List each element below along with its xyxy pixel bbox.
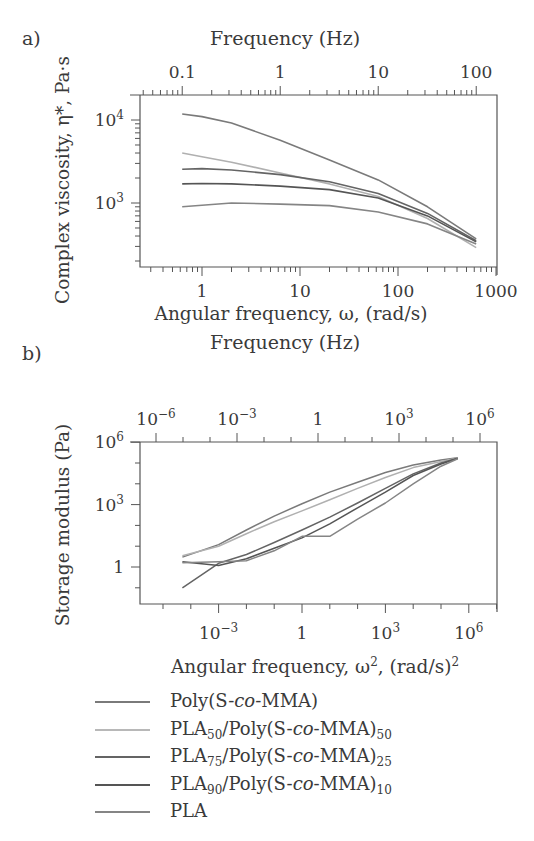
tick-label: 10−3 — [217, 407, 256, 429]
legend-label: PLA75/Poly(S-co-MMA)25 — [170, 745, 392, 773]
legend-swatch — [95, 784, 150, 786]
panel-b-left-ticks: 1061031 — [95, 430, 140, 588]
panel-a-series — [182, 114, 476, 248]
legend-item: PLA75/Poly(S-co-MMA)25 — [95, 745, 515, 773]
panel-b-y-axis-title: Storage modulus (Pa) — [52, 424, 73, 627]
panel-a-y-axis-title: Complex viscosity, η*, Pa·s — [52, 56, 73, 304]
tick-label: 1 — [297, 623, 308, 643]
tick-label: 10 — [289, 281, 311, 301]
legend-item: PLA50/Poly(S-co-MMA)50 — [95, 718, 515, 746]
series-line-2 — [182, 458, 457, 588]
panel-b-bottom-ticks: 10−31103106 — [163, 604, 497, 643]
panel-b-series — [182, 458, 457, 588]
legend-label: Poly(S-co-MMA) — [170, 690, 318, 712]
legend-item: PLA90/Poly(S-co-MMA)10 — [95, 773, 515, 801]
panel-b-x-axis-title: Angular frequency, ω2, (rad/s)2 — [170, 655, 459, 677]
legend-swatch — [95, 701, 150, 703]
legend-label: PLA90/Poly(S-co-MMA)10 — [170, 773, 392, 801]
tick-label: 106 — [95, 430, 124, 452]
panel-a-bottom-ticks: 1101001000 — [151, 267, 518, 301]
series-line-1 — [182, 153, 476, 248]
tick-label: 10−3 — [199, 621, 238, 643]
tick-label: 1 — [275, 62, 286, 82]
panel-a-x-axis-title: Angular frequency, ω, (rad/s) — [154, 303, 428, 324]
tick-label: 10−6 — [136, 407, 175, 429]
tick-label: 103 — [95, 191, 124, 213]
panel-b-label: b) — [22, 342, 42, 364]
legend-swatch — [95, 756, 150, 758]
panel-a-plot-frame — [130, 95, 497, 275]
tick-label: 1 — [197, 281, 208, 301]
panel-b-top-ticks: 10−610−31103106 — [136, 407, 494, 442]
panel-b-top-axis-title: Frequency (Hz) — [210, 331, 360, 353]
panel-a-left-ticks: 104103 — [95, 108, 140, 261]
legend-item: PLA — [95, 800, 515, 828]
tick-label: 103 — [384, 407, 413, 429]
panel-a-top-ticks: 0.1110100 — [143, 62, 492, 95]
tick-label: 106 — [465, 407, 494, 429]
series-line-3 — [182, 184, 476, 242]
panel-a-label: a) — [22, 27, 41, 49]
series-line-2 — [182, 169, 476, 241]
tick-label: 1 — [313, 409, 324, 429]
tick-label: 104 — [95, 108, 125, 130]
series-line-3 — [182, 459, 457, 566]
legend: Poly(S-co-MMA)PLA50/Poly(S-co-MMA)50PLA7… — [95, 690, 515, 828]
series-line-0 — [182, 114, 476, 239]
legend-label: PLA — [170, 800, 207, 822]
legend-item: Poly(S-co-MMA) — [95, 690, 515, 718]
tick-label: 0.1 — [169, 62, 196, 82]
tick-label: 103 — [371, 621, 400, 643]
legend-label: PLA50/Poly(S-co-MMA)50 — [170, 718, 392, 746]
legend-swatch — [95, 729, 150, 731]
tick-label: 1 — [113, 557, 124, 577]
tick-label: 103 — [95, 493, 124, 515]
tick-label: 106 — [454, 621, 483, 643]
tick-label: 100 — [382, 281, 414, 301]
panel-a-top-axis-title: Frequency (Hz) — [210, 27, 360, 49]
tick-label: 1000 — [474, 281, 517, 301]
tick-label: 10 — [367, 62, 389, 82]
tick-label: 100 — [460, 62, 492, 82]
legend-swatch — [95, 811, 150, 813]
